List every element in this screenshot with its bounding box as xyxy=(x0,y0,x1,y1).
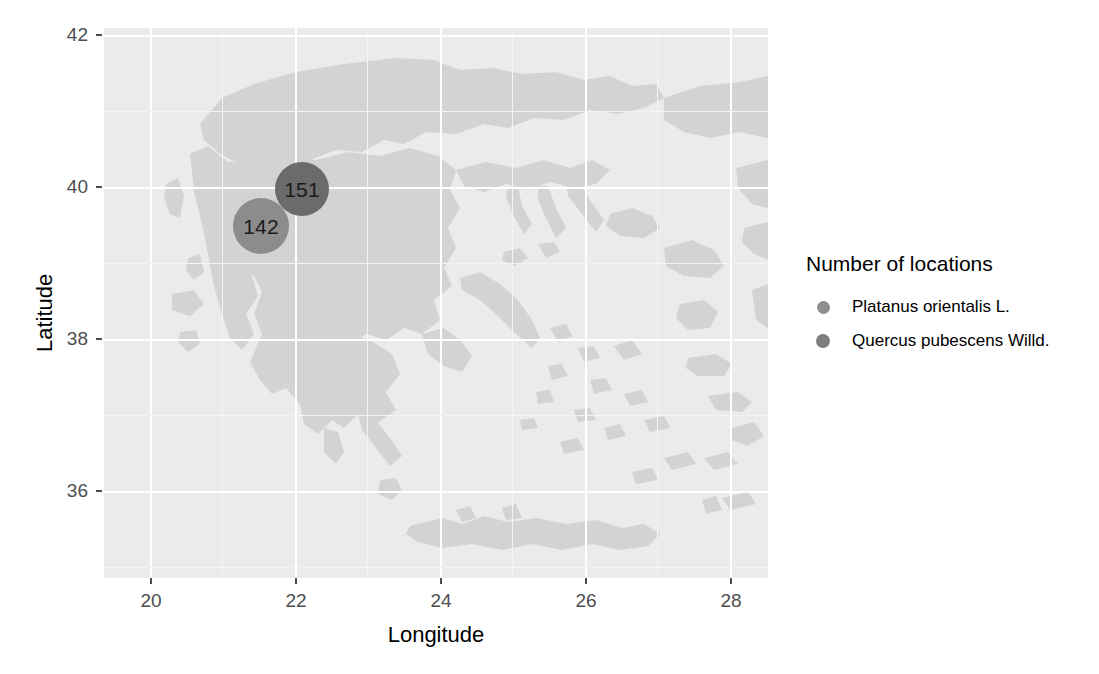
gridline-y-40 xyxy=(104,187,768,189)
legend-item-platanus[interactable]: Platanus orientalis L. xyxy=(806,290,1091,324)
ytick-mark-36 xyxy=(96,490,102,492)
x-axis-title: Longitude xyxy=(0,622,872,648)
xtick-label-24: 24 xyxy=(411,590,471,612)
xtick-label-28: 28 xyxy=(701,590,761,612)
ytick-label-40: 40 xyxy=(38,176,88,198)
gridline-y-minor-35 xyxy=(104,567,768,568)
xtick-label-20: 20 xyxy=(121,590,181,612)
circle-icon xyxy=(817,301,830,314)
xtick-mark-20 xyxy=(150,578,152,584)
ggplot-figure: 142 151 42 40 38 36 Latitude 20 22 24 26… xyxy=(0,0,1099,674)
plot-panel: 142 151 xyxy=(104,28,768,578)
gridline-y-minor-41 xyxy=(104,111,768,112)
xtick-mark-26 xyxy=(585,578,587,584)
legend-label-platanus: Platanus orientalis L. xyxy=(852,297,1010,317)
gridline-y-minor-39 xyxy=(104,263,768,264)
ytick-label-42: 42 xyxy=(38,24,88,46)
xtick-label-22: 22 xyxy=(266,590,326,612)
legend-label-quercus: Quercus pubescens Willd. xyxy=(852,331,1049,351)
ytick-mark-42 xyxy=(96,34,102,36)
legend-key-quercus xyxy=(806,324,840,358)
data-bubble-quercus[interactable]: 151 xyxy=(275,162,329,216)
gridline-y-42 xyxy=(104,35,768,37)
gridline-y-38 xyxy=(104,339,768,341)
circle-icon xyxy=(816,334,830,348)
gridline-y-minor-37 xyxy=(104,415,768,416)
xtick-mark-22 xyxy=(295,578,297,584)
ytick-mark-40 xyxy=(96,186,102,188)
gridline-y-36 xyxy=(104,491,768,493)
xtick-label-26: 26 xyxy=(556,590,616,612)
legend-item-quercus[interactable]: Quercus pubescens Willd. xyxy=(806,324,1091,358)
y-axis-title: Latitude xyxy=(32,274,58,352)
legend: Number of locations Platanus orientalis … xyxy=(806,252,1091,358)
ytick-mark-38 xyxy=(96,338,102,340)
ytick-label-36: 36 xyxy=(38,480,88,502)
legend-key-platanus xyxy=(806,290,840,324)
xtick-mark-28 xyxy=(730,578,732,584)
legend-title: Number of locations xyxy=(806,252,1091,276)
xtick-mark-24 xyxy=(440,578,442,584)
